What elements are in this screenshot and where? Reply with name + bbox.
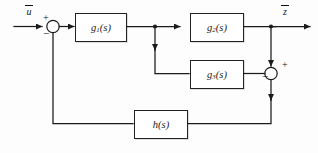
wire-h-to-sum1 <box>53 33 133 124</box>
block-h: h(s) <box>134 110 188 139</box>
block-g1-label: g1(s) <box>91 22 111 33</box>
block-g1: g1(s) <box>75 13 127 42</box>
sum2-plus-sign: + <box>282 60 288 70</box>
output-signal-label: z <box>281 5 289 17</box>
input-signal-text: u <box>27 6 32 17</box>
block-g3-label: g3(s) <box>207 69 227 80</box>
input-signal-label: u <box>25 5 33 17</box>
block-g2-label: g2(s) <box>207 22 227 33</box>
sum1-minus-sign: − <box>43 28 49 39</box>
block-diagram: g1(s) g2(s) g3(s) h(s) + − + − u z <box>0 0 318 153</box>
sum1-plus-sign: + <box>43 13 49 23</box>
sum2-minus-sign: − <box>262 71 268 82</box>
block-g3: g3(s) <box>190 60 244 89</box>
block-g2: g2(s) <box>190 13 244 42</box>
block-h-label: h(s) <box>153 119 170 130</box>
wire-branch-to-g3 <box>155 48 189 74</box>
wire-sum2-to-h <box>187 98 271 124</box>
output-signal-text: z <box>283 6 287 17</box>
